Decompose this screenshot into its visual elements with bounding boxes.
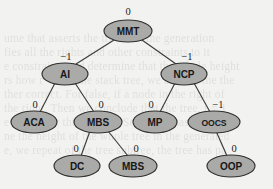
edge-mbs1-to-mbs2 <box>108 131 128 156</box>
node-label-mbs1: MBS <box>87 117 109 128</box>
node-label-ai: AI <box>60 69 70 80</box>
edge-weight-oocs: −1 <box>212 99 223 110</box>
edge-weight-ncp: −1 <box>181 51 192 62</box>
node-mbs2[interactable]: MBS <box>109 155 157 177</box>
node-mmt[interactable]: MMT <box>104 20 152 42</box>
edge-mmt-to-ai <box>76 40 114 64</box>
tree-diagram: 0−1−1000−1000 MMTAINCPACAMBSMPOOCSDCMBSO… <box>0 0 273 189</box>
node-aca[interactable]: ACA <box>11 111 57 133</box>
node-label-aca: ACA <box>23 117 44 128</box>
node-label-oop: OOP <box>220 161 242 172</box>
node-label-mbs2: MBS <box>122 161 144 172</box>
node-label-ncp: NCP <box>174 69 195 80</box>
node-label-mp: MP <box>148 117 163 128</box>
node-mp[interactable]: MP <box>133 111 177 133</box>
node-label-oocs: OOCS <box>202 118 227 128</box>
edge-ncp-to-mp <box>160 83 175 112</box>
edge-mmt-to-ncp <box>142 40 176 64</box>
node-label-mmt: MMT <box>117 26 139 37</box>
edge-ai-to-aca <box>40 83 55 112</box>
edge-oocs-to-oop <box>216 131 227 156</box>
edge-weight-dc: 0 <box>73 143 78 154</box>
edge-weight-mmt: 0 <box>125 6 130 17</box>
node-dc[interactable]: DC <box>54 155 100 177</box>
node-ai[interactable]: AI <box>42 63 88 85</box>
scanned-figure: ume that asserts the tree is in the gene… <box>0 0 273 189</box>
edge-weight-aca: 0 <box>32 99 37 110</box>
edge-ai-to-mbs1 <box>75 83 94 112</box>
node-mbs1[interactable]: MBS <box>74 111 122 133</box>
edge-weight-ai: −1 <box>60 51 71 62</box>
node-oop[interactable]: OOP <box>207 155 255 177</box>
edge-weight-oop: 0 <box>231 143 236 154</box>
edge-mbs1-to-dc <box>81 131 90 156</box>
edge-weight-mp: 0 <box>148 99 153 110</box>
edge-ncp-to-oocs <box>194 83 210 112</box>
node-oocs[interactable]: OOCS <box>188 111 240 133</box>
edge-weight-mbs2: 0 <box>133 143 138 154</box>
edge-weight-mbs1: 0 <box>98 99 103 110</box>
node-label-dc: DC <box>70 161 84 172</box>
node-ncp[interactable]: NCP <box>161 63 207 85</box>
